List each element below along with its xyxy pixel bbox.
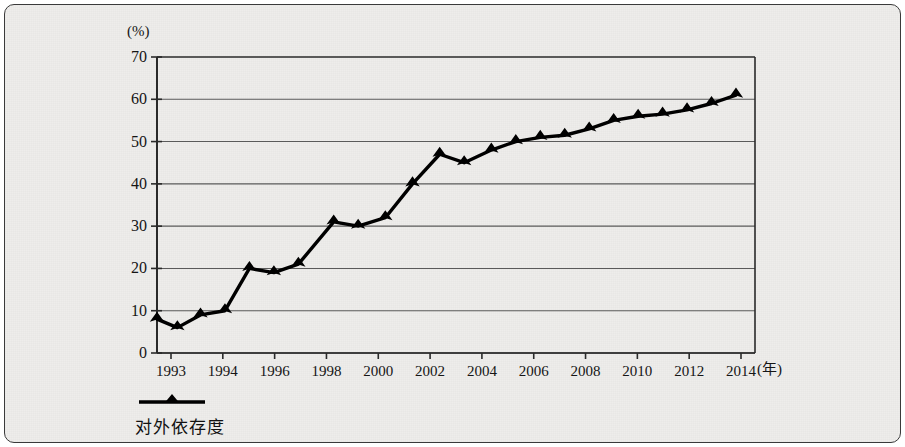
x-axis-tick-label: 1996 — [260, 363, 290, 380]
y-axis-unit-label: (%) — [127, 23, 150, 40]
y-axis-tick-label: 50 — [113, 133, 147, 151]
y-axis-tick-label: 10 — [113, 302, 147, 320]
y-axis-tick-label: 20 — [113, 259, 147, 277]
x-axis-tick-label: 2000 — [363, 363, 393, 380]
x-axis-tick-label: 2004 — [467, 363, 497, 380]
chart-legend: 对外依存度 — [135, 391, 365, 438]
x-axis-tick-label: 2014 — [726, 363, 756, 380]
legend-series-label: 对外依存度 — [135, 413, 365, 438]
y-axis-tick-label: 60 — [113, 90, 147, 108]
y-axis-tick-label: 30 — [113, 217, 147, 235]
x-axis-tick-label: 2006 — [519, 363, 549, 380]
data-series-line — [150, 88, 743, 331]
x-axis-unit-label: (年) — [757, 357, 782, 378]
x-axis-tick-label: 2012 — [674, 363, 704, 380]
x-axis-tick-marks — [171, 353, 741, 359]
x-axis-tick-label: 1998 — [311, 363, 341, 380]
y-axis-tick-label: 0 — [113, 344, 147, 362]
horizontal-gridlines — [157, 99, 755, 353]
legend-marker-swatch — [135, 391, 209, 409]
x-axis-tick-label: 1994 — [208, 363, 238, 380]
y-axis-tick-label: 70 — [113, 48, 147, 66]
plot-area: (%) (年) 010203040506070 1993199419961998… — [5, 5, 902, 444]
x-axis-tick-label: 2010 — [622, 363, 652, 380]
x-axis-tick-label: 2002 — [415, 363, 445, 380]
y-axis-tick-label: 40 — [113, 175, 147, 193]
x-axis-tick-label: 2008 — [571, 363, 601, 380]
chart-axes — [157, 57, 755, 353]
x-axis-tick-label: 1993 — [156, 363, 186, 380]
chart-figure: (%) (年) 010203040506070 1993199419961998… — [4, 4, 901, 443]
